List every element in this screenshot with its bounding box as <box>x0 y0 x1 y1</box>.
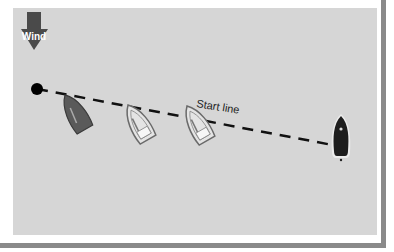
race-start-diagram: Wind Start line <box>0 0 394 252</box>
wind-label: Wind <box>22 31 46 42</box>
start-line-label: Start line <box>196 97 241 116</box>
committee-boat-icon <box>332 114 351 161</box>
boat-icon <box>119 100 156 144</box>
pin-mark-icon <box>31 83 43 95</box>
